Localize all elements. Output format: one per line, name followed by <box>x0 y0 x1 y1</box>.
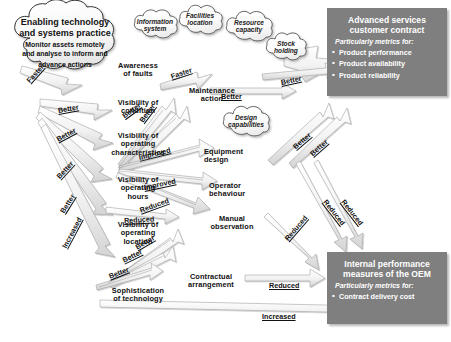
node-line2: design <box>204 156 262 164</box>
panel-metric-item: Product performance <box>339 47 441 59</box>
cloud-label-line2: capabilities <box>222 121 270 128</box>
panel-metric-item: Contract delivery cost <box>339 291 441 303</box>
node-line2: observation <box>199 223 265 231</box>
cloud-label-facilities-location: Facilities location <box>179 12 221 27</box>
cloud-label-line1: Design <box>222 114 270 121</box>
source-cloud-heading-line2: and systems practice <box>19 28 111 38</box>
node-contractual-arrangement: Contractual arrangement <box>178 273 244 290</box>
source-cloud-body-line3: advance actions <box>38 61 92 68</box>
arrow-label-reduced-6: Reduced <box>269 281 299 290</box>
diagram-canvas: Enabling technology and systems practice… <box>0 0 451 342</box>
panel-metric-item: Product availability <box>339 58 441 70</box>
panel-subtitle: Particularly metrics for: <box>327 280 447 290</box>
node-line2: of faults <box>110 70 166 78</box>
panel-title: Internal performance measures of the OEM <box>327 252 447 280</box>
panel-advanced-services-customer-contract[interactable]: Advanced services customer contract Part… <box>327 8 447 96</box>
cloud-label-line2: system <box>133 25 177 32</box>
cloud-label-line1: Facilities <box>179 12 221 19</box>
cloud-label-line1: Resource <box>226 19 272 26</box>
panel-internal-performance-measures-of-the-oem[interactable]: Internal performance measures of the OEM… <box>327 252 447 324</box>
node-sophistication-of-technology: Sophistication of technology <box>100 287 176 304</box>
cloud-label-line2: holding <box>265 47 307 54</box>
cloud-label-design-capabilities: Design capabilities <box>222 114 270 129</box>
cloud-label-line1: Information <box>133 18 177 25</box>
panel-title-line1: Internal performance <box>333 259 441 269</box>
arrow-manual-to-internal-reduced <box>264 213 319 270</box>
node-operator-behaviour: Operator behaviour <box>209 182 267 199</box>
node-line2: of technology <box>100 295 176 303</box>
node-line2: arrangement <box>178 281 244 289</box>
cloud-label-stock-holding: Stock holding <box>265 40 307 55</box>
arrow-label-reduced-2: Reduced <box>124 214 155 225</box>
panel-metric-list: Product performance Product availability… <box>327 46 447 88</box>
panel-title: Advanced services customer contract <box>327 8 447 36</box>
source-cloud-body-line1: Monitor assets remotely <box>25 41 104 48</box>
cloud-label-line2: location <box>179 19 221 26</box>
cloud-label-information-system: Information system <box>133 18 177 33</box>
node-equipment-design: Equipment design <box>204 148 262 165</box>
cloud-label-line1: Stock <box>265 40 307 47</box>
source-cloud-heading-line1: Enabling technology <box>21 17 110 27</box>
node-line2: behaviour <box>209 190 267 198</box>
panel-metric-list: Contract delivery cost <box>327 290 447 309</box>
panel-subtitle: Particularly metrics for: <box>327 36 447 46</box>
arrow-label-better-10: Better <box>221 92 242 101</box>
arrow-label-increased-2: Increased <box>262 312 296 321</box>
cloud-label-line2: capacity <box>226 26 272 33</box>
node-awareness-of-faults: Awareness of faults <box>110 62 166 79</box>
panel-metric-item: Product reliability <box>339 70 441 82</box>
panel-title-line2: customer contract <box>333 25 441 35</box>
source-cloud-text: Enabling technology and systems practice… <box>18 17 112 70</box>
node-manual-observation: Manual observation <box>199 215 265 232</box>
panel-title-line1: Advanced services <box>333 15 441 25</box>
panel-title-line2: measures of the OEM <box>333 269 441 279</box>
cloud-label-resource-capacity: Resource capacity <box>226 19 272 34</box>
source-cloud-body-line2: and analyse to inform and <box>22 50 107 57</box>
